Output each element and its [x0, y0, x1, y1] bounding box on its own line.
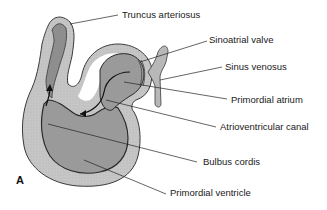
- leader-sinoatrial-valve: [140, 41, 207, 62]
- panel-letter: A: [16, 174, 24, 186]
- sinus-venosus-vessel: [148, 46, 168, 107]
- embryonic-heart-diagram: Truncus arteriosus Sinoatrial valve Sinu…: [0, 0, 327, 210]
- label-sinus-venosus: Sinus venosus: [225, 62, 287, 72]
- label-sinoatrial-valve: Sinoatrial valve: [209, 35, 273, 45]
- label-bulbus-cordis: Bulbus cordis: [203, 157, 260, 167]
- leader-truncus-arteriosus: [70, 15, 118, 24]
- label-atrioventricular-canal: Atrioventricular canal: [220, 122, 309, 132]
- leader-sinus-venosus: [160, 67, 222, 80]
- heart-illustration: [0, 0, 327, 210]
- atrium-lumen: [100, 54, 144, 111]
- label-primordial-ventricle: Primordial ventricle: [170, 188, 251, 198]
- label-truncus-arteriosus: Truncus arteriosus: [122, 10, 200, 20]
- label-primordial-atrium: Primordial atrium: [231, 95, 303, 105]
